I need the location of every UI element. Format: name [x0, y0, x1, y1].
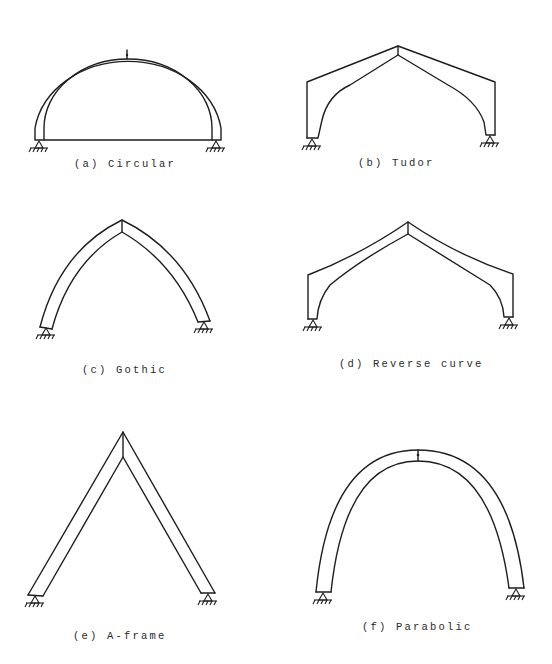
pin-support-icon [303, 320, 322, 331]
pin-support-icon [313, 593, 332, 604]
pin-support-icon [194, 322, 213, 333]
caption-a-frame: (e) A-frame [73, 630, 167, 642]
gothic-arch [36, 220, 213, 339]
pin-support-icon [506, 589, 525, 600]
pin-support-icon [25, 596, 44, 607]
a-frame-arch [25, 432, 217, 607]
caption-parabolic: (f) Parabolic [362, 621, 473, 633]
circular-arch [29, 50, 225, 152]
pin-support-icon [499, 318, 518, 329]
pin-support-icon [480, 136, 499, 147]
pin-support-icon [206, 141, 225, 152]
pin-support-icon [198, 594, 217, 605]
caption-reverse-curve: (d) Reverse curve [339, 358, 484, 370]
parabolic-arch [313, 450, 525, 604]
arch-types-diagram [0, 0, 552, 664]
pin-support-icon [29, 141, 48, 152]
caption-circular: (a) Circular [74, 158, 176, 170]
reverse-curve-arch [303, 222, 518, 331]
pin-support-icon [302, 139, 321, 150]
tudor-arch [302, 46, 499, 150]
caption-tudor: (b) Tudor [358, 157, 435, 169]
caption-gothic: (c) Gothic [82, 364, 167, 376]
